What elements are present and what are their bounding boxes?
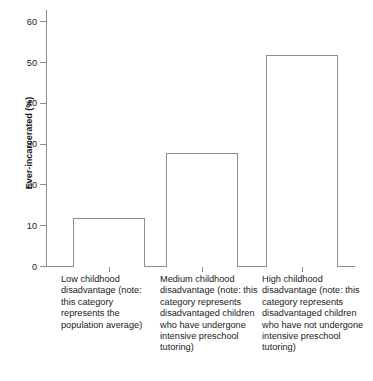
plot-area: 0102030405060: [46, 10, 355, 267]
x-axis-tick: [302, 267, 303, 272]
bar-chart: Ever-incarcerated (%) 0102030405060 Low …: [0, 0, 373, 381]
y-axis-tick-label: 30: [27, 139, 37, 149]
x-axis-tick: [202, 267, 203, 272]
x-axis-category-label: High childhood disadvantage (note: this …: [262, 274, 372, 354]
bar: [166, 153, 238, 267]
bar: [266, 55, 338, 267]
bar: [73, 218, 145, 267]
x-axis-tick: [109, 267, 110, 272]
bars-layer: [46, 10, 355, 267]
y-axis-tick-label: 10: [27, 221, 37, 231]
y-axis-tick-label: 20: [27, 180, 37, 190]
x-axis-category-label: Medium childhood disadvantage (note: thi…: [160, 274, 260, 354]
y-axis-tick-label: 50: [27, 58, 37, 68]
y-axis-tick-label: 0: [32, 262, 37, 272]
category-labels: Low childhood disadvantage (note: this c…: [0, 274, 373, 381]
y-axis-tick-label: 60: [27, 17, 37, 27]
x-axis-category-label: Low childhood disadvantage (note: this c…: [61, 274, 157, 331]
y-axis-tick-label: 40: [27, 98, 37, 108]
